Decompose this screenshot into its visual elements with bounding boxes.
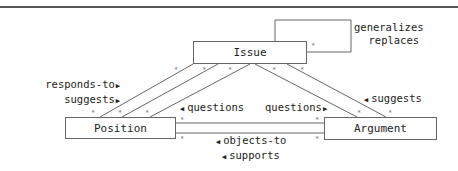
multiplicity-star: *: [311, 42, 315, 50]
multiplicity-star: *: [357, 109, 361, 117]
multiplicity-star: *: [180, 116, 184, 124]
argument-node[interactable]: Argument: [324, 117, 437, 140]
multiplicity-star: *: [180, 135, 184, 143]
multiplicity-star: *: [300, 66, 304, 74]
multiplicity-star: *: [202, 66, 206, 74]
multiplicity-star: *: [91, 109, 95, 117]
label-questions-argument: questions: [265, 101, 327, 116]
issue-position-label: responds-to suggests: [44, 78, 120, 108]
label-suggests-position: suggests: [44, 93, 120, 108]
multiplicity-star: *: [174, 66, 178, 74]
label-questions-position: questions: [180, 101, 244, 116]
multiplicity-star: *: [388, 109, 392, 117]
multiplicity-star: *: [315, 135, 319, 143]
argument-label: Argument: [354, 122, 407, 135]
multiplicity-star: *: [228, 66, 232, 74]
issue-node[interactable]: Issue: [193, 41, 307, 64]
label-responds-to: responds-to: [44, 78, 120, 93]
argument-position-label: objects-to supports: [216, 134, 286, 164]
position-node[interactable]: Position: [65, 117, 176, 139]
label-objects-to: objects-to: [216, 134, 286, 149]
label-replaces: replaces: [354, 34, 424, 47]
multiplicity-star: *: [118, 109, 122, 117]
multiplicity-star: *: [272, 66, 276, 74]
label-suggests-argument: suggests: [364, 92, 422, 107]
label-supports: supports: [216, 149, 286, 164]
issue-label: Issue: [233, 46, 266, 59]
label-generalizes: generalizes: [354, 21, 424, 34]
multiplicity-star: *: [315, 116, 319, 124]
multiplicity-star: *: [145, 109, 149, 117]
position-label: Position: [94, 122, 147, 135]
self-loop-label: generalizes replaces: [354, 21, 424, 47]
